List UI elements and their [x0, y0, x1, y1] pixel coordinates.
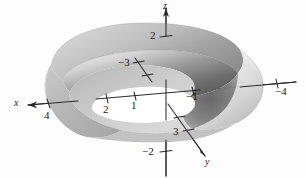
x-axis-label: x	[14, 98, 18, 108]
y-tick-label-neg3: −3	[118, 57, 130, 68]
mobius-strip-figure: z x y 2 −2 4 2 1 −1 −4 −3 3	[0, 0, 306, 178]
y-axis-label: y	[205, 157, 209, 167]
z-tick-neg2	[160, 151, 172, 153]
z-tick-label-2: 2	[150, 30, 156, 41]
z-tick-label-neg2: −2	[142, 146, 154, 157]
z-axis-label: z	[163, 1, 167, 11]
x-tick-label-1: 1	[131, 100, 137, 111]
y-tick-label-3: 3	[173, 126, 179, 137]
x-tick-label-neg4: −4	[275, 86, 287, 97]
x-tick-label-neg1: −1	[186, 91, 198, 102]
x-tick-label-4: 4	[44, 110, 50, 121]
x-tick-label-2: 2	[103, 104, 109, 115]
